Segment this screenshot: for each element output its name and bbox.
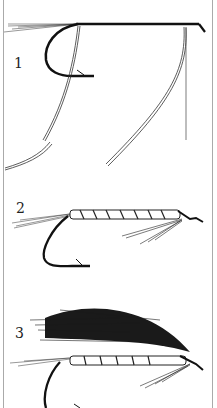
step-1-label: 1 xyxy=(14,55,23,71)
step-3-illustration: 3 xyxy=(10,309,203,408)
step-2-label: 2 xyxy=(16,200,25,216)
step-3-label: 3 xyxy=(15,325,24,341)
fly-tying-diagram: 1 2 xyxy=(0,0,217,408)
step-2-illustration: 2 xyxy=(12,200,203,266)
step-1-illustration: 1 xyxy=(4,24,205,170)
